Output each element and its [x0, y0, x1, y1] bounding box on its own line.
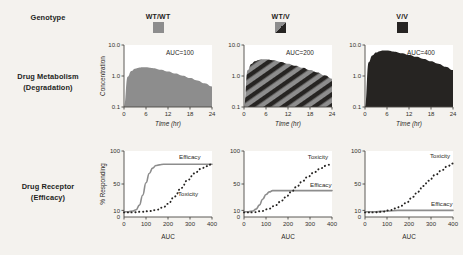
- svg-text:18: 18: [306, 111, 313, 117]
- svg-text:12: 12: [284, 111, 291, 117]
- chart-metabolism-v-v: 06121824 0.11.010.0 AUC=400 Time (hr): [343, 37, 461, 129]
- plot-background: [365, 151, 453, 217]
- svg-text:0.1: 0.1: [231, 104, 240, 110]
- y-axis-ticks: 10501000: [110, 148, 124, 220]
- svg-text:50: 50: [355, 181, 362, 187]
- svg-text:10.0: 10.0: [108, 42, 120, 48]
- panel-metabolism-wt-wt: 06121824 0.11.010.0 AUC=100 Time (hr) Co…: [96, 36, 220, 130]
- row-label-drug-receptor: Drug Receptor (Efficacy): [0, 130, 96, 255]
- svg-text:12: 12: [406, 111, 413, 117]
- svg-text:400: 400: [448, 221, 459, 227]
- svg-text:10.0: 10.0: [228, 42, 240, 48]
- chart-receptor-wt-wt: EfficacyToxicity 0100200300400 10501000 …: [96, 141, 220, 245]
- y-axis-ticks: 10501000: [351, 148, 365, 220]
- svg-text:0: 0: [242, 221, 246, 227]
- svg-text:400: 400: [207, 221, 218, 227]
- genotype-label-wt-v: WT/V: [272, 13, 290, 20]
- curve-label-efficacy: Efficacy: [310, 180, 332, 187]
- svg-text:1.0: 1.0: [353, 73, 362, 79]
- row-label-drug-receptor-line2: (Efficacy): [22, 193, 75, 204]
- curve-label-efficacy: Efficacy: [431, 199, 453, 206]
- svg-text:6: 6: [386, 111, 390, 117]
- x-axis-title: Time (hr): [275, 120, 301, 128]
- curve-label-toxicity: Toxicity: [430, 151, 451, 158]
- svg-text:10: 10: [233, 207, 240, 213]
- pharmacogenomics-figure: Genotype WT/WT WT/V V/V Drug Metabolism …: [0, 0, 463, 255]
- x-axis-ticks: 06121824: [364, 107, 458, 117]
- genotype-header-v-v: V/V: [342, 0, 463, 36]
- y-axis-ticks: 0.11.010.0: [350, 42, 366, 110]
- genotype-label-v-v: V/V: [396, 13, 408, 20]
- svg-text:0: 0: [364, 221, 368, 227]
- genotype-header-wt-v: WT/V: [220, 0, 342, 36]
- svg-text:6: 6: [264, 111, 268, 117]
- x-axis-ticks: 0100200300400: [122, 217, 217, 227]
- x-axis-ticks: 06121824: [122, 107, 216, 117]
- panel-receptor-v-v: EfficacyToxicity 0100200300400 10501000 …: [342, 130, 463, 255]
- svg-text:100: 100: [110, 148, 121, 154]
- row-label-genotype: Genotype: [0, 0, 96, 36]
- half-diagonal-swatch-icon: [275, 22, 286, 33]
- svg-text:100: 100: [261, 221, 272, 227]
- x-axis-title: AUC: [161, 233, 175, 240]
- svg-text:100: 100: [230, 148, 241, 154]
- svg-text:100: 100: [351, 148, 362, 154]
- panel-receptor-wt-v: EfficacyToxicity 0100200300400 10501000 …: [220, 130, 342, 255]
- annotation-auc: AUC=200: [286, 49, 314, 56]
- svg-text:24: 24: [450, 111, 457, 117]
- y-axis-ticks: 10501000: [230, 148, 244, 220]
- svg-text:18: 18: [187, 111, 194, 117]
- panel-metabolism-v-v: 06121824 0.11.010.0 AUC=400 Time (hr): [342, 36, 463, 130]
- chart-receptor-wt-v: EfficacyToxicity 0100200300400 10501000 …: [222, 141, 340, 245]
- svg-text:1.0: 1.0: [231, 73, 240, 79]
- x-axis-ticks: 0100200300400: [242, 217, 337, 227]
- svg-text:0: 0: [364, 111, 368, 117]
- x-axis-ticks: 06121824: [242, 107, 336, 117]
- chart-metabolism-wt-v: 06121824 0.11.010.0 AUC=200 Time (hr): [222, 37, 340, 129]
- row-label-drug-receptor-line1: Drug Receptor: [22, 182, 75, 193]
- svg-text:24: 24: [209, 111, 216, 117]
- svg-text:300: 300: [305, 221, 316, 227]
- panel-receptor-wt-wt: EfficacyToxicity 0100200300400 10501000 …: [96, 130, 220, 255]
- svg-text:0: 0: [358, 214, 362, 220]
- svg-text:400: 400: [327, 221, 338, 227]
- svg-text:0.1: 0.1: [353, 104, 362, 110]
- row-label-drug-metabolism: Drug Metabolism (Degradation): [0, 36, 96, 130]
- x-axis-ticks: 0100200300400: [364, 217, 459, 227]
- y-axis-title: % Responding: [99, 162, 107, 204]
- svg-text:100: 100: [141, 221, 152, 227]
- row-label-genotype-text: Genotype: [31, 13, 66, 24]
- y-axis-ticks: 0.11.010.0: [228, 42, 244, 110]
- x-axis-title: Time (hr): [396, 120, 422, 128]
- genotype-label-wt-wt: WT/WT: [146, 13, 171, 20]
- svg-text:0: 0: [122, 221, 126, 227]
- svg-text:1.0: 1.0: [112, 73, 121, 79]
- svg-text:0.1: 0.1: [112, 104, 121, 110]
- svg-text:0: 0: [122, 111, 126, 117]
- svg-text:200: 200: [404, 221, 415, 227]
- curve-label-efficacy: Efficacy: [179, 152, 201, 159]
- svg-text:200: 200: [283, 221, 294, 227]
- svg-text:200: 200: [163, 221, 174, 227]
- svg-text:300: 300: [426, 221, 437, 227]
- genotype-header-wt-wt: WT/WT: [96, 0, 220, 36]
- row-label-drug-metabolism-line2: (Degradation): [17, 83, 78, 94]
- chart-receptor-v-v: EfficacyToxicity 0100200300400 10501000 …: [343, 141, 461, 245]
- svg-text:10.0: 10.0: [350, 42, 362, 48]
- svg-text:10: 10: [113, 207, 120, 213]
- svg-text:300: 300: [185, 221, 196, 227]
- svg-text:0: 0: [236, 214, 240, 220]
- svg-text:100: 100: [382, 221, 393, 227]
- solid-gray-swatch-icon: [153, 22, 164, 33]
- svg-text:24: 24: [328, 111, 335, 117]
- svg-text:50: 50: [233, 181, 240, 187]
- row-label-drug-metabolism-line1: Drug Metabolism: [17, 72, 78, 83]
- x-axis-title: Time (hr): [155, 120, 181, 128]
- svg-text:10: 10: [355, 207, 362, 213]
- x-axis-title: AUC: [403, 233, 417, 240]
- panel-metabolism-wt-v: 06121824 0.11.010.0 AUC=200 Time (hr): [220, 36, 342, 130]
- curve-label-toxicity: Toxicity: [178, 189, 199, 196]
- solid-dark-swatch-icon: [397, 22, 408, 33]
- svg-text:50: 50: [113, 181, 120, 187]
- svg-text:0: 0: [242, 111, 246, 117]
